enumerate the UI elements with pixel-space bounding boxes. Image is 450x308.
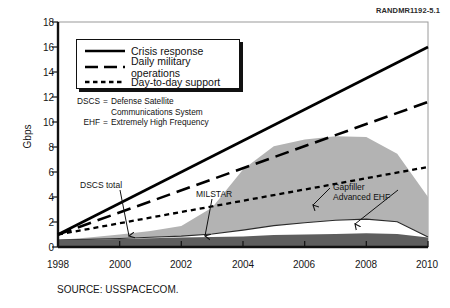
abbreviation-key: DSCS = Defense Satellite Communications … xyxy=(77,96,209,128)
abbrev-term-ehf: EHF xyxy=(77,117,103,128)
legend-label-day-to-day-support: Day-to-day support xyxy=(131,76,220,88)
annotation-dscs-total: DSCS total xyxy=(80,180,122,190)
annotation-milstar: MILSTAR xyxy=(196,189,232,199)
abbrev-equals-ehf: = xyxy=(103,117,111,128)
abbrev-def-ehf-line1: Extremely High Frequency xyxy=(111,117,209,128)
abbrev-def-dscs-line2: Communications System xyxy=(111,107,209,118)
source-note: SOURCE: USSPACECOM. xyxy=(57,284,179,295)
abbrev-equals-dscs: = xyxy=(103,96,111,107)
legend-item-day-to-day-support: Day-to-day support xyxy=(85,74,220,90)
legend-item-daily-military-operations: Daily military operations xyxy=(85,59,239,75)
abbrev-def-dscs-line1: Defense Satellite xyxy=(111,96,209,107)
annotation-gapfiller: Gapfiller xyxy=(333,182,365,192)
abbrev-row-ehf: EHF = Extremely High Frequency xyxy=(77,117,209,128)
abbrev-term-dscs: DSCS xyxy=(77,96,103,107)
abbrev-row-dscs: DSCS = Defense Satellite xyxy=(77,96,209,107)
dashed-line-icon xyxy=(85,61,125,73)
chart-figure: RANDMR1192-5.1 Gbps 18 16 14 12 10 8 6 4… xyxy=(0,0,450,308)
chart-legend: Crisis response Daily military operation… xyxy=(76,39,240,89)
annotation-advanced-ehf: Advanced EHF xyxy=(333,192,390,202)
solid-line-icon xyxy=(85,45,125,57)
dotted-line-icon xyxy=(85,76,125,88)
abbrev-row-dscs-cont: Communications System xyxy=(77,107,209,118)
